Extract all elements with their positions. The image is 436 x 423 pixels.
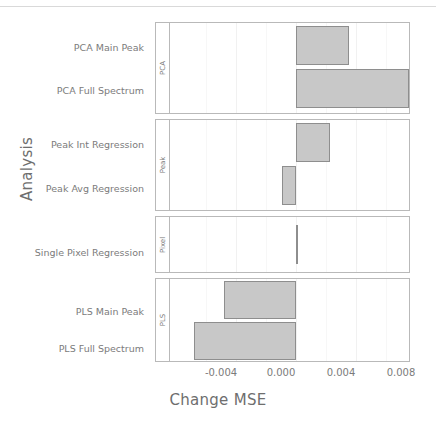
x-tick-label: 0.004: [327, 367, 356, 378]
chart-figure: Analysis PCA Main Peak PCA Full Spectrum…: [0, 0, 436, 423]
x-tick-label: -0.004: [205, 367, 237, 378]
x-axis-title: Change MSE: [0, 391, 436, 409]
x-tick-label: 0.008: [387, 367, 416, 378]
x-tick-labels: -0.004 0.000 0.004 0.008: [0, 0, 436, 423]
x-tick-label: 0.000: [267, 367, 296, 378]
